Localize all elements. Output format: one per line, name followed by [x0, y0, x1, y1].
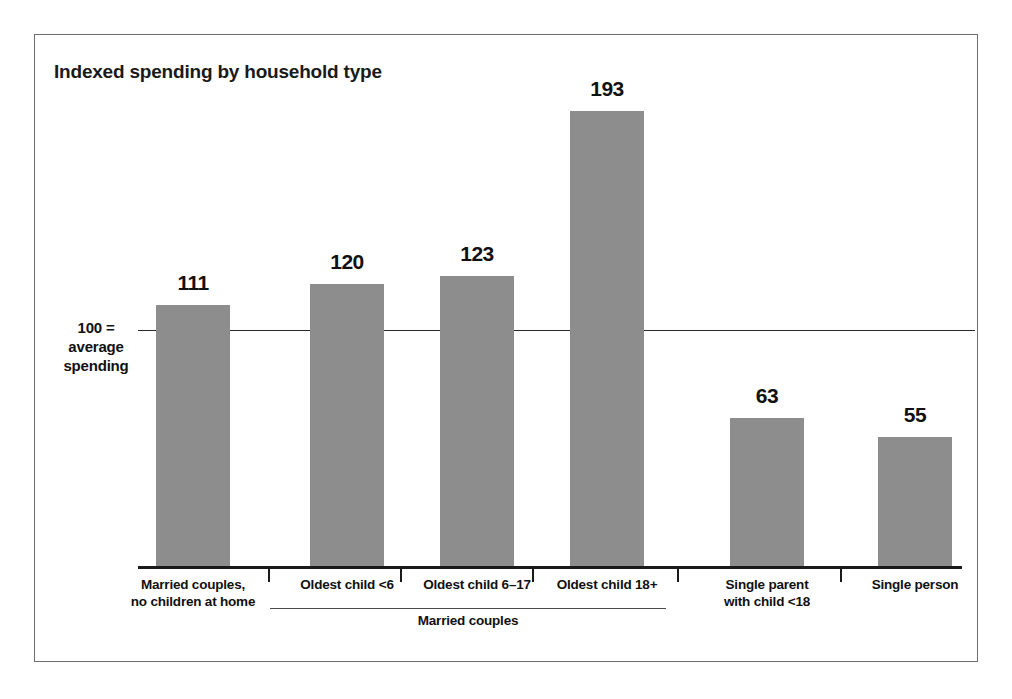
bar-oldest-child-6-17[interactable]	[440, 276, 514, 567]
bar-value-label: 193	[570, 77, 644, 101]
bar-oldest-child-18-plus[interactable]	[570, 111, 644, 567]
x-axis-label-oldest-child-18-plus: Oldest child 18+	[538, 576, 676, 593]
bar-married-no-children[interactable]	[156, 305, 230, 567]
x-axis-line	[138, 566, 962, 569]
x-axis-label-line: Oldest child 6–17	[408, 576, 546, 593]
reference-label-line-2: average	[60, 337, 132, 356]
x-axis-label-line: Single parent	[702, 576, 832, 593]
bar-single-person[interactable]	[878, 437, 952, 567]
bar-single-parent[interactable]	[730, 418, 804, 567]
group-bracket-label: Married couples	[270, 613, 666, 628]
x-axis-label-oldest-child-under-6: Oldest child <6	[278, 576, 416, 593]
bar-value-label: 63	[730, 384, 804, 408]
x-axis-label-line: Married couples,	[128, 576, 258, 593]
reference-line-label: 100 = average spending	[60, 318, 132, 375]
bar-chart-plot: 100 = average spending 111 120 123 193 6…	[0, 0, 1012, 699]
bar-value-label: 111	[156, 271, 230, 295]
axis-tick	[677, 568, 679, 582]
x-axis-label-line: Oldest child <6	[278, 576, 416, 593]
bar-value-label: 120	[310, 250, 384, 274]
bar-value-label: 55	[878, 403, 952, 427]
bar-value-label: 123	[440, 242, 514, 266]
x-axis-label-single-person: Single person	[850, 576, 980, 593]
reference-line-100	[138, 330, 975, 331]
axis-tick	[840, 568, 842, 582]
x-axis-label-oldest-child-6-17: Oldest child 6–17	[408, 576, 546, 593]
bar-oldest-child-under-6[interactable]	[310, 284, 384, 567]
x-axis-label-line: no children at home	[128, 593, 258, 610]
x-axis-label-line: with child <18	[702, 593, 832, 610]
axis-tick	[268, 568, 270, 582]
x-axis-label-line: Oldest child 18+	[538, 576, 676, 593]
x-axis-label-married-no-children: Married couples, no children at home	[128, 576, 258, 610]
group-bracket-line	[270, 608, 666, 609]
x-axis-label-line: Single person	[850, 576, 980, 593]
x-axis-label-single-parent: Single parent with child <18	[702, 576, 832, 610]
reference-label-line-3: spending	[60, 356, 132, 375]
figure-page: Indexed spending by household type 100 =…	[0, 0, 1012, 699]
reference-label-line-1: 100 =	[60, 318, 132, 337]
